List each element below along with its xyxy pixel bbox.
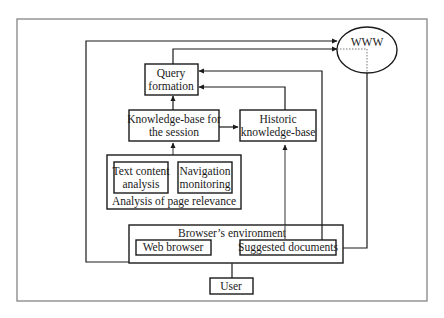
page-relevance-label: Analysis of page relevance (112, 195, 236, 208)
system-architecture-diagram: WWW Query formation Knowledge-base for t… (0, 0, 444, 318)
historic-kb-node: Historic knowledge-base (240, 110, 316, 141)
www-node: WWW (337, 27, 397, 73)
user-node: User (210, 278, 253, 294)
suggested-docs-label: Suggested documents (238, 241, 338, 254)
web-browser-label: Web browser (143, 241, 204, 253)
browser-environment-group: Browser’s environment Web browser Sugges… (129, 225, 343, 263)
user-label: User (220, 280, 242, 292)
kb-session-line2: the session (149, 126, 199, 138)
www-label: WWW (351, 36, 384, 48)
browser-env-label: Browser’s environment (178, 227, 287, 239)
historic-kb-line2: knowledge-base (241, 126, 316, 139)
kb-session-line1: Knowledge-base for (127, 113, 221, 126)
historic-kb-line1: Historic (259, 113, 296, 125)
navigation-line2: monitoring (179, 178, 230, 191)
kb-session-node: Knowledge-base for the session (127, 110, 221, 141)
navigation-line1: Navigation (179, 165, 230, 178)
page-relevance-group: Text content analysis Navigation monitor… (107, 155, 241, 209)
text-content-line2: analysis (122, 178, 160, 191)
edge-www-to-suggested (337, 72, 367, 248)
query-formation-line1: Query (157, 67, 186, 80)
edge-query-to-www (173, 49, 337, 64)
query-formation-line2: formation (148, 80, 194, 92)
query-formation-node: Query formation (145, 64, 198, 95)
text-content-line1: Text content (113, 165, 171, 177)
edge-historic-to-query (199, 87, 285, 110)
